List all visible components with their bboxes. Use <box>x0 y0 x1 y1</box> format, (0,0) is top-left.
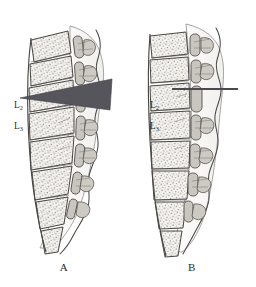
panel-b: L2 L3 B <box>128 0 256 287</box>
level-sub-l2-b: 2 <box>156 104 159 111</box>
panel-b-illustration <box>128 0 256 287</box>
panel-caption-a: A <box>0 261 128 273</box>
level-sub-l2-a: 2 <box>20 104 23 111</box>
spine-figure: L2 L3 A <box>0 0 256 287</box>
level-label-l2-a: L2 <box>14 101 23 111</box>
panel-caption-b: B <box>128 261 256 273</box>
level-label-l2-b: L2 <box>150 101 159 111</box>
level-sub-l3-a: 3 <box>20 125 23 132</box>
level-label-l3-b: L3 <box>150 122 159 132</box>
panel-a: L2 L3 A <box>0 0 128 287</box>
panel-a-illustration <box>0 0 128 287</box>
level-sub-l3-b: 3 <box>156 125 159 132</box>
vertebral-bodies-b <box>150 32 190 257</box>
level-label-l3-a: L3 <box>14 122 23 132</box>
